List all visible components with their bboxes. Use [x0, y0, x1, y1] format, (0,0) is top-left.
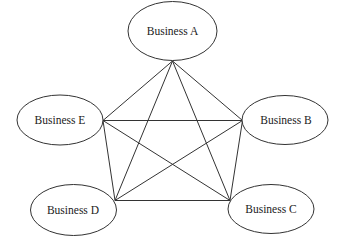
- node-b: Business B: [242, 96, 328, 145]
- edges: [103, 61, 243, 201]
- node-a-label: Business A: [147, 25, 199, 37]
- node-d: Business D: [31, 185, 117, 236]
- node-c-label: Business C: [245, 203, 297, 215]
- node-e-label: Business E: [35, 114, 86, 126]
- edge-e-d: [103, 121, 115, 201]
- node-a: Business A: [128, 2, 217, 61]
- edge-a-c: [173, 61, 231, 201]
- edge-a-d: [115, 61, 173, 201]
- node-b-label: Business B: [260, 114, 312, 126]
- edge-b-c: [230, 121, 243, 201]
- edge-b-d: [115, 121, 243, 201]
- node-d-label: Business D: [47, 204, 99, 216]
- node-e: Business E: [17, 95, 103, 145]
- edge-e-c: [103, 121, 230, 201]
- network-diagram: Business A Business B Business C Busines…: [0, 0, 344, 246]
- node-c: Business C: [228, 185, 314, 234]
- edge-a-b: [173, 61, 243, 121]
- edge-a-e: [103, 61, 173, 121]
